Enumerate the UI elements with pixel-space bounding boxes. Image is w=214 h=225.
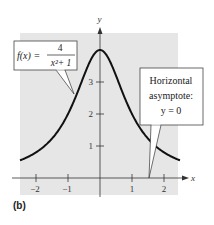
y-tick-label: 1 <box>89 141 94 151</box>
asymptote-line-1: Horizontal <box>150 75 193 86</box>
y-axis-arrow-icon <box>98 27 103 34</box>
x-tick-label: 2 <box>162 184 167 194</box>
x-axis-label: x <box>190 173 195 183</box>
asymptote-line-3: y = 0 <box>161 105 182 116</box>
function-numerator: 4 <box>58 43 63 53</box>
x-tick-label: −2 <box>30 184 40 194</box>
y-tick-label: 3 <box>89 77 94 87</box>
function-lhs: f(x) = <box>17 50 40 62</box>
subfigure-label: (b) <box>13 200 26 211</box>
x-tick-label: 1 <box>130 184 135 194</box>
chart: x y −2 −1 1 2 1 2 3 f(x) = 4 x²+ 1 <box>0 0 214 225</box>
function-denominator: x²+ 1 <box>50 58 72 68</box>
x-axis-arrow-icon <box>182 176 189 181</box>
y-axis-label: y <box>97 14 102 24</box>
x-tick-label: −1 <box>62 184 72 194</box>
y-tick-label: 2 <box>89 109 94 119</box>
asymptote-line-2: asymptote: <box>149 90 193 101</box>
